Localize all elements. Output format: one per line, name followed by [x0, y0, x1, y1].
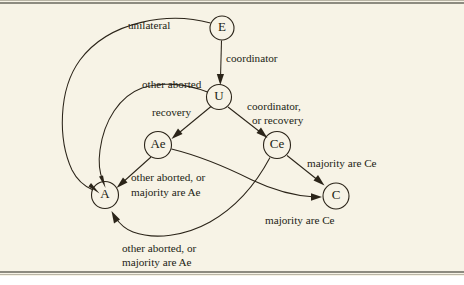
state-diagram: E U Ae Ce A C unilateral coordinator oth…: [0, 0, 464, 285]
node-Ce: Ce: [264, 132, 291, 159]
node-E: E: [210, 16, 234, 40]
edge-e-to-u: [217, 41, 224, 86]
edge-label-majority-are-ce: majority are Ce: [307, 157, 377, 169]
node-Ae: Ae: [145, 132, 172, 159]
node-label-C: C: [332, 187, 341, 202]
node-label-A: A: [100, 186, 110, 201]
figure-canvas: E U Ae Ce A C unilateral coordinator oth…: [0, 0, 464, 285]
edge-label-majority-are-ae: majority are Ae: [131, 186, 201, 198]
node-label-Ae: Ae: [150, 136, 165, 151]
edge-label-other-aborted: other aborted: [142, 78, 202, 90]
edge-label-other-aborted-or: other aborted, or: [131, 171, 206, 183]
node-U: U: [207, 85, 232, 110]
edge-label-unilateral: unilateral: [128, 19, 170, 31]
node-label-Ce: Ce: [270, 136, 285, 151]
node-label-E: E: [218, 19, 226, 34]
edge-label-majority-are-ae-2: majority are Ae: [122, 256, 192, 268]
edge-label-coordinator-2: coordinator,: [247, 100, 301, 112]
node-label-U: U: [214, 88, 224, 103]
node-A: A: [92, 182, 119, 209]
edge-label-other-aborted-or-2: other aborted, or: [122, 242, 197, 254]
edge-label-coordinator: coordinator: [226, 52, 278, 64]
edge-label-majority-are-ce-2: majority are Ce: [265, 214, 335, 226]
node-C: C: [323, 183, 349, 209]
edge-label-recovery: recovery: [152, 106, 192, 118]
edge-label-or-recovery: or recovery: [252, 114, 304, 126]
